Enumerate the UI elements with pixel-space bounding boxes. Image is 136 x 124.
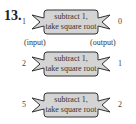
machine-rule: subtract 1, take square root	[42, 12, 100, 32]
input-value-1: 1	[22, 17, 26, 26]
machine-rule: subtract 1, take square root	[42, 95, 100, 115]
input-label: (input)	[24, 38, 46, 47]
machine-rule: subtract 1, take square root	[42, 54, 100, 74]
input-value-2: 2	[22, 59, 26, 68]
function-machine-1: subtract 1, take square root	[30, 9, 112, 35]
function-machine-2: subtract 1, take square root	[30, 51, 112, 77]
function-machine-3: subtract 1, take square root	[30, 92, 112, 118]
problem-number: 13.	[4, 8, 22, 24]
output-value-2: 1	[118, 59, 122, 68]
output-value-3: 2	[118, 100, 122, 109]
output-value-1: 0	[118, 17, 122, 26]
output-label: (output)	[90, 38, 116, 47]
input-value-3: 5	[22, 100, 26, 109]
